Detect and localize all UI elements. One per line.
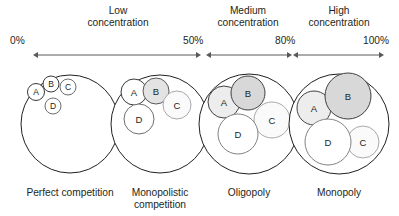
band-label-high-concentration-line2: concentration	[308, 17, 369, 28]
market-caption-monopolistic-competition-line2: competition	[134, 199, 186, 210]
firm-label-perfect-competition-c: C	[65, 82, 71, 92]
band-label-medium-concentration-line1: Medium	[230, 5, 266, 16]
market-monopoly: ABCD	[289, 73, 389, 174]
market-oligopoly: ABCD	[199, 74, 299, 174]
market-caption-monopoly: Monopoly	[317, 187, 362, 198]
band-label-low-concentration-line2: concentration	[87, 17, 148, 28]
firm-label-monopoly-b: B	[345, 91, 351, 102]
band-label-group: LowconcentrationMediumconcentrationHighc…	[87, 5, 369, 28]
band-label-high-concentration-line1: High	[329, 5, 350, 16]
market-monopolistic-competition: ABCD	[111, 75, 209, 173]
tick-0%: 0%	[10, 35, 25, 46]
firm-label-monopoly-d: D	[325, 137, 332, 148]
tick-80%: 80%	[275, 35, 295, 46]
firm-label-perfect-competition-d: D	[50, 101, 56, 111]
market-caption-monopolistic-competition-line1: Monopolistic	[132, 187, 189, 198]
firm-label-monopolistic-competition-a: A	[131, 87, 138, 98]
firm-label-oligopoly-a: A	[221, 97, 228, 108]
firm-label-oligopoly-d: D	[235, 129, 242, 140]
band-label-medium-concentration-line2: concentration	[217, 17, 278, 28]
firm-label-monopoly-a: A	[311, 103, 318, 114]
firm-label-monopolistic-competition-b: B	[153, 86, 159, 97]
market-caption-oligopoly: Oligopoly	[228, 187, 271, 198]
firm-label-monopolistic-competition-d: D	[136, 114, 143, 125]
market-label-group: Perfect competitionMonopolisticcompetiti…	[26, 187, 362, 210]
firm-label-perfect-competition-b: B	[48, 79, 54, 89]
firm-label-monopoly-c: C	[360, 137, 367, 148]
firm-label-perfect-competition-a: A	[33, 87, 39, 97]
tick-50%: 50%	[183, 35, 203, 46]
band-label-low-concentration-line1: Low	[109, 5, 128, 16]
firm-label-oligopoly-b: B	[245, 88, 251, 99]
market-concentration-diagram: LowconcentrationMediumconcentrationHighc…	[0, 0, 399, 216]
market-perfect-competition: ABCD	[21, 75, 119, 173]
tick-100%: 100%	[363, 35, 389, 46]
market-circle-group: ABCDABCDABCDABCD	[21, 73, 389, 174]
market-caption-perfect-competition: Perfect competition	[26, 187, 113, 198]
figure-canvas: LowconcentrationMediumconcentrationHighc…	[0, 0, 399, 216]
firm-label-oligopoly-c: C	[269, 115, 276, 126]
firm-label-monopolistic-competition-c: C	[174, 100, 181, 111]
tick-label-group: 0%50%80%100%	[10, 35, 389, 46]
